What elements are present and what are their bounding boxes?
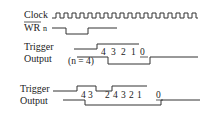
svg-text:3: 3 xyxy=(88,90,93,100)
count-sequence-2: 4 3 2 4 3 2 1 0 xyxy=(81,90,161,100)
output2-label: Output xyxy=(20,95,48,106)
wr-label: WR xyxy=(24,22,40,33)
svg-text:4: 4 xyxy=(113,90,118,100)
output1-annotation: (n = 4) xyxy=(68,56,94,67)
svg-text:0: 0 xyxy=(156,90,161,100)
svg-text:0: 0 xyxy=(140,47,145,57)
svg-text:2: 2 xyxy=(121,47,126,57)
output2-waveform xyxy=(63,100,200,105)
wr-waveform xyxy=(52,28,117,34)
svg-text:4: 4 xyxy=(81,90,86,100)
output1-label: Output xyxy=(24,53,52,64)
clock-label: Clock xyxy=(24,9,48,20)
wr-suffix: n xyxy=(43,24,47,33)
svg-text:2: 2 xyxy=(105,90,110,100)
svg-text:2: 2 xyxy=(129,90,134,100)
svg-text:4: 4 xyxy=(101,47,106,57)
svg-text:3: 3 xyxy=(111,47,116,57)
trigger1-waveform xyxy=(74,44,139,49)
svg-text:3: 3 xyxy=(121,90,126,100)
output1-waveform xyxy=(77,57,198,64)
svg-text:1: 1 xyxy=(131,47,136,57)
count-sequence-1: 4 3 2 1 0 xyxy=(101,47,145,57)
svg-text:1: 1 xyxy=(137,90,142,100)
trigger1-label: Trigger xyxy=(24,41,54,52)
trigger2-label: Trigger xyxy=(20,83,50,94)
clock-waveform xyxy=(52,13,198,18)
timing-diagram: Clock WR n Trigger Output (n = 4) Trigge… xyxy=(0,0,212,125)
